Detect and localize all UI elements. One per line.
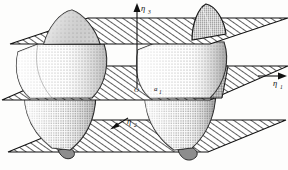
axis-eta3-subscript: 3 (147, 9, 151, 15)
axis-eta1-label: η (273, 78, 277, 88)
origin-label: O (134, 86, 139, 94)
figure-root: η 3 η 1 η 2 O a 1 (0, 0, 288, 170)
a1-label: a (154, 85, 158, 93)
figure-illustration: η 3 η 1 η 2 O a 1 (0, 0, 288, 170)
body-left-lens (17, 44, 107, 98)
axis-eta2-label: η (127, 116, 131, 126)
body-right-lens (137, 42, 227, 98)
axis-eta2-subscript: 2 (134, 122, 137, 128)
axis-eta3-label: η (141, 3, 145, 13)
a1-subscript: 1 (159, 89, 162, 95)
point-origin: O (134, 86, 139, 94)
axis-eta1-subscript: 1 (280, 84, 283, 90)
